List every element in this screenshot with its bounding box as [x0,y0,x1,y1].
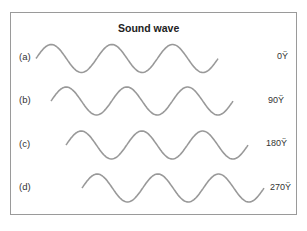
sine-wave-b [51,87,233,115]
sine-wave-a [36,45,218,73]
waves-canvas [0,0,307,231]
sine-wave-c [66,131,248,159]
sine-wave-d [82,174,264,202]
